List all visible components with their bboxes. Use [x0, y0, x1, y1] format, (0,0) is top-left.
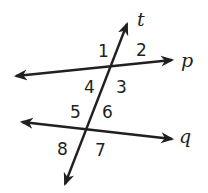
angle-1-label: 1	[98, 41, 109, 61]
angle-7-label: 7	[95, 140, 106, 160]
line-q-label: q	[179, 125, 191, 147]
line-t-label: t	[137, 8, 145, 30]
angle-4-label: 4	[84, 77, 95, 97]
angle-6-label: 6	[102, 102, 113, 122]
angle-2-label: 2	[136, 40, 147, 60]
angle-8-label: 8	[57, 139, 68, 159]
angle-5-label: 5	[70, 102, 81, 122]
angle-3-label: 3	[116, 77, 127, 97]
line-q	[22, 122, 172, 139]
line-p-label: p	[181, 49, 193, 71]
line-p	[16, 60, 172, 76]
parallel-lines-transversal-diagram: t p q 1 2 3 4 5 6 7 8	[0, 0, 208, 193]
